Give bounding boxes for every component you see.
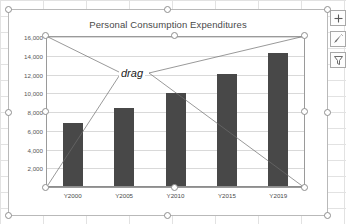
chart-handle-bottom-right[interactable] [324, 212, 331, 219]
chart-object[interactable]: Personal Consumption Expenditures 2,0004… [8, 9, 328, 216]
bar-Y2005[interactable] [114, 108, 134, 187]
x-axis-tick-label: Y2010 [167, 192, 185, 199]
chart-handle-top-left[interactable] [5, 6, 12, 13]
chart-handle-middle-left[interactable] [5, 109, 12, 116]
y-axis-tick-label: 8,000 [28, 109, 43, 116]
chart-handle-top-right[interactable] [324, 6, 331, 13]
chart-handle-bottom-left[interactable] [5, 212, 12, 219]
chart-filters-button[interactable] [330, 52, 346, 68]
plot-handle-top-left[interactable] [42, 32, 49, 39]
bar-Y2000[interactable] [63, 123, 83, 187]
chart-handle-middle-right[interactable] [324, 109, 331, 116]
y-axis-tick-label: 6,000 [28, 127, 43, 134]
gridline [47, 56, 304, 57]
sheet-gridline [0, 0, 346, 1]
x-axis-tick-label: Y2015 [218, 192, 236, 199]
chart-styles-button[interactable] [330, 31, 346, 47]
plot-handle-top-right[interactable] [301, 32, 308, 39]
x-axis-tick-label: Y2000 [64, 192, 82, 199]
gridline [47, 75, 304, 76]
plot-handle-bottom-left[interactable] [42, 184, 49, 191]
x-axis-tick-label: Y2019 [269, 192, 287, 199]
chart-side-buttons [330, 10, 346, 73]
y-axis-tick-label: 14,000 [24, 52, 43, 59]
plot-area[interactable]: 2,0004,0006,0008,00010,00012,00014,00016… [46, 36, 305, 188]
chart-title[interactable]: Personal Consumption Expenditures [9, 19, 327, 30]
y-axis-tick-label: 16,000 [24, 34, 43, 41]
chart-elements-button[interactable] [330, 10, 346, 26]
y-axis-tick-label: 12,000 [24, 71, 43, 78]
plot-handle-middle-left[interactable] [42, 108, 49, 115]
x-axis-tick-label: Y2005 [115, 192, 133, 199]
plot-handle-top-center[interactable] [171, 32, 178, 39]
chart-handle-bottom-center[interactable] [164, 212, 171, 219]
bar-Y2010[interactable] [166, 93, 186, 187]
y-axis-tick-label: 4,000 [28, 146, 43, 153]
paintbrush-icon [332, 33, 344, 45]
bar-Y2015[interactable] [217, 74, 237, 187]
funnel-icon [333, 55, 344, 66]
plot-handle-bottom-right[interactable] [301, 184, 308, 191]
plot-handle-bottom-center[interactable] [171, 184, 178, 191]
drag-annotation-label: drag [119, 67, 145, 79]
plus-icon [333, 13, 344, 24]
y-axis-tick-label: 10,000 [24, 90, 43, 97]
bar-Y2019[interactable] [268, 53, 288, 187]
chart-handle-top-center[interactable] [164, 6, 171, 13]
plot-handle-middle-right[interactable] [301, 108, 308, 115]
y-axis-tick-label: 2,000 [28, 165, 43, 172]
